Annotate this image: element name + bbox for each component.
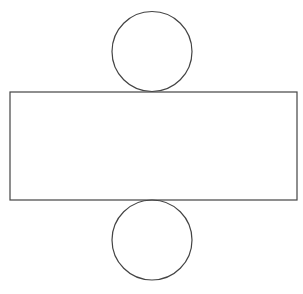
bottom-base-circle [112, 200, 192, 280]
lateral-surface-rectangle [10, 92, 297, 200]
cylinder-net-diagram [0, 0, 303, 294]
top-base-circle [112, 12, 192, 92]
